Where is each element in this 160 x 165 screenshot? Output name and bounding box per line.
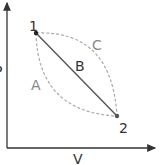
pv-diagram: 1 2 A B C V P — [0, 0, 160, 165]
path-b — [36, 33, 117, 116]
point-2-marker — [115, 114, 119, 118]
point-2-label: 2 — [119, 120, 128, 136]
point-1-label: 1 — [29, 18, 38, 34]
y-axis-label: P — [0, 63, 2, 79]
path-b-label: B — [75, 58, 85, 74]
path-a-label: A — [31, 77, 41, 93]
path-c-label: C — [92, 37, 102, 53]
x-axis-label: V — [73, 151, 83, 165]
